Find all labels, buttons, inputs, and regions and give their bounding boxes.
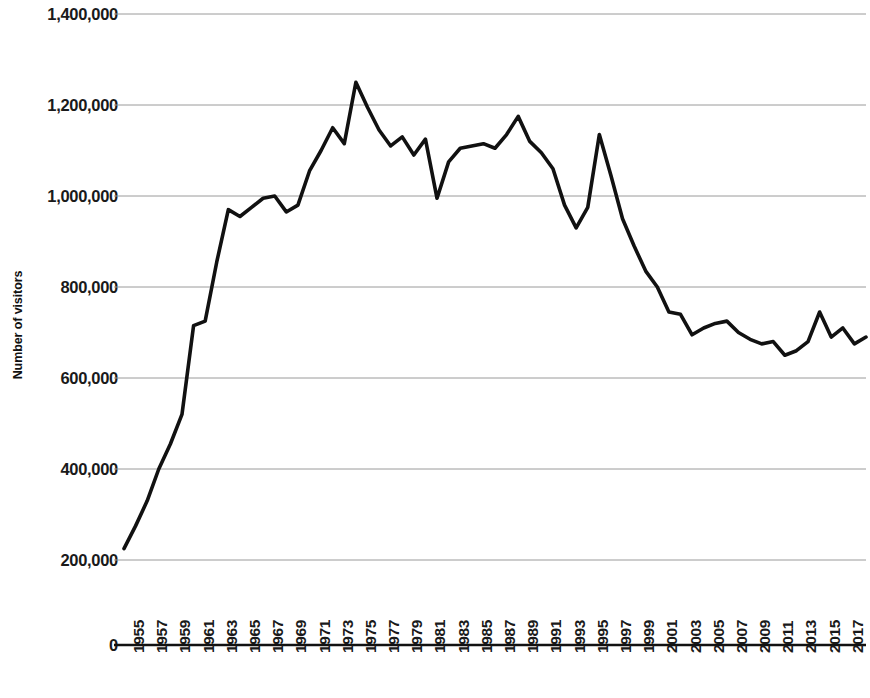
x-axis-tick-label: 1979 <box>408 620 426 653</box>
x-axis-tick-label: 1985 <box>478 620 496 653</box>
x-axis-tick-label: 1969 <box>292 620 310 653</box>
x-axis-tick-label: 2011 <box>779 621 797 653</box>
x-axis-tick-label: 1965 <box>246 620 264 653</box>
x-axis-tick-label: 1971 <box>316 620 334 653</box>
x-axis-tick-label: 1981 <box>431 620 449 653</box>
x-axis-tick-label: 1995 <box>594 620 612 653</box>
x-axis-tick-label: 1955 <box>130 620 148 653</box>
x-axis-tick-label: 1975 <box>362 620 380 653</box>
x-axis-tick-label: 2009 <box>756 620 774 653</box>
x-axis-tick-label: 1989 <box>524 620 542 653</box>
visitors-data-line <box>124 82 866 548</box>
x-axis-tick-label: 1993 <box>571 620 589 653</box>
x-axis-tick-label: 1991 <box>547 620 565 653</box>
x-axis-tick-label: 1997 <box>617 620 635 653</box>
x-axis-tick-label: 2015 <box>826 620 844 653</box>
x-axis-tick-label: 1973 <box>339 620 357 653</box>
x-axis-tick-label: 1959 <box>176 620 194 653</box>
x-axis-tick-label: 2003 <box>687 620 705 653</box>
x-axis-tick-label: 1999 <box>640 620 658 653</box>
x-axis-tick-label: 1963 <box>223 620 241 653</box>
plot-area <box>0 0 870 698</box>
x-axis-tick-label: 2001 <box>663 620 681 653</box>
visitors-line-chart: 0200,000400,000600,000800,0001,000,0001,… <box>0 0 870 698</box>
x-axis-tick-label: 1957 <box>153 620 171 653</box>
x-axis-tick-label: 2013 <box>802 620 820 653</box>
x-axis-tick-label: 1967 <box>269 620 287 653</box>
x-axis-tick-label: 2017 <box>849 620 867 653</box>
x-axis-tick-label: 1987 <box>501 620 519 653</box>
x-axis-tick-label: 2005 <box>710 620 728 653</box>
x-axis-tick-label: 2007 <box>733 620 751 653</box>
x-axis-tick-label: 1977 <box>385 620 403 653</box>
gridlines <box>114 14 866 560</box>
x-axis-tick-label: 1961 <box>200 620 218 653</box>
x-axis-tick-label: 1983 <box>455 620 473 653</box>
